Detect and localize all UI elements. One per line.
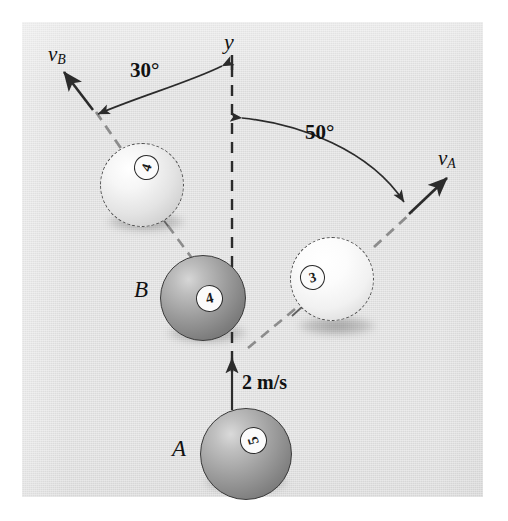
ball-b-final-number-text: 4 bbox=[139, 162, 154, 173]
velocity-a-subscript: A bbox=[447, 156, 455, 171]
velocity-a-label: vA bbox=[438, 148, 456, 171]
velocity-b-symbol: v bbox=[48, 42, 57, 66]
physics-diagram-figure: 4 3 4 5 y B A vB vA 30° 50° 2 m/s bbox=[0, 0, 508, 521]
ball-a-label: A bbox=[172, 437, 186, 460]
angle-a-label: 50° bbox=[305, 122, 334, 143]
initial-speed-label: 2 m/s bbox=[242, 372, 287, 392]
ball-a-initial-number-text: 5 bbox=[245, 435, 262, 447]
velocity-b-label: vB bbox=[48, 44, 66, 67]
y-axis-label: y bbox=[224, 31, 234, 53]
ball-b-label: B bbox=[134, 278, 148, 301]
velocity-b-subscript: B bbox=[57, 52, 65, 67]
ball-a-final-number-text: 3 bbox=[307, 270, 317, 285]
angle-b-label: 30° bbox=[130, 60, 159, 81]
velocity-a-symbol: v bbox=[438, 146, 447, 170]
ball-a-initial bbox=[200, 408, 292, 500]
ball-b-initial-number-text: 4 bbox=[204, 290, 215, 306]
